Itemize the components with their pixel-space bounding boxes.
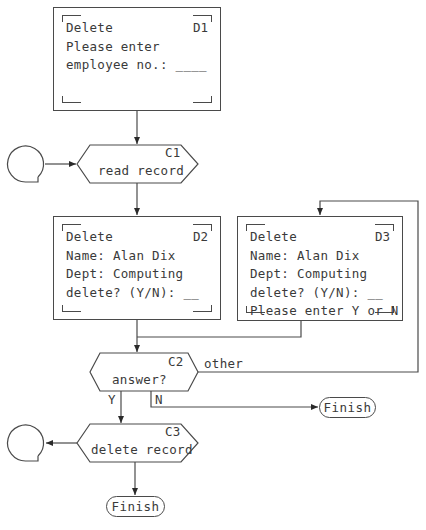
branch-yes-label: Y — [108, 393, 116, 407]
terminal-finish: Finish — [106, 496, 165, 517]
computation-c3-id: C3 — [165, 425, 181, 439]
screen-line: Name: Alan Dix — [66, 247, 199, 266]
screen-line: delete? (Y/N): __ — [250, 284, 399, 303]
screen-text: DeletePlease enteremployee no.: ____ — [66, 19, 207, 75]
screen-text: DeleteName: Alan DixDept: Computingdelet… — [250, 228, 399, 321]
screen-corner — [193, 96, 212, 103]
screen-line: Name: Alan Dix — [250, 247, 399, 266]
connector-icon — [8, 425, 44, 461]
edge-c2-no-finish — [151, 391, 318, 407]
computation-c3-label: delete record — [91, 443, 193, 457]
computation-c2-id: C2 — [168, 355, 184, 369]
screen-d3: D3 DeleteName: Alan DixDept: Computingde… — [237, 216, 403, 321]
screen-line: Delete — [250, 228, 399, 247]
screen-line: delete? (Y/N): __ — [66, 284, 199, 303]
computation-c1-id: C1 — [165, 146, 181, 160]
screen-line: Delete — [66, 228, 199, 247]
screen-line: Please enter Y or N — [250, 302, 399, 321]
screen-line: Dept: Computing — [66, 265, 199, 284]
screen-corner — [62, 305, 81, 312]
branch-other-label: other — [204, 357, 243, 371]
computation-c1-label: read record — [98, 164, 184, 178]
terminal-finish: Finish — [319, 397, 376, 418]
screen-corner — [62, 96, 81, 103]
screen-text: DeleteName: Alan DixDept: Computingdelet… — [66, 228, 199, 302]
screen-line: Delete — [66, 19, 207, 38]
connector-icon — [8, 146, 44, 182]
screen-line: employee no.: ____ — [66, 56, 207, 75]
screen-line: Dept: Computing — [250, 265, 399, 284]
edge-d3-c2 — [137, 321, 301, 337]
screen-line: Please enter — [66, 38, 207, 57]
computation-c2-label: answer? — [112, 373, 167, 387]
screen-d2: D2 DeleteName: Alan DixDept: Computingde… — [53, 216, 221, 320]
screen-corner — [193, 305, 212, 312]
screen-d1: D1 DeletePlease enteremployee no.: ____ — [53, 7, 221, 111]
branch-no-label: N — [155, 393, 163, 407]
